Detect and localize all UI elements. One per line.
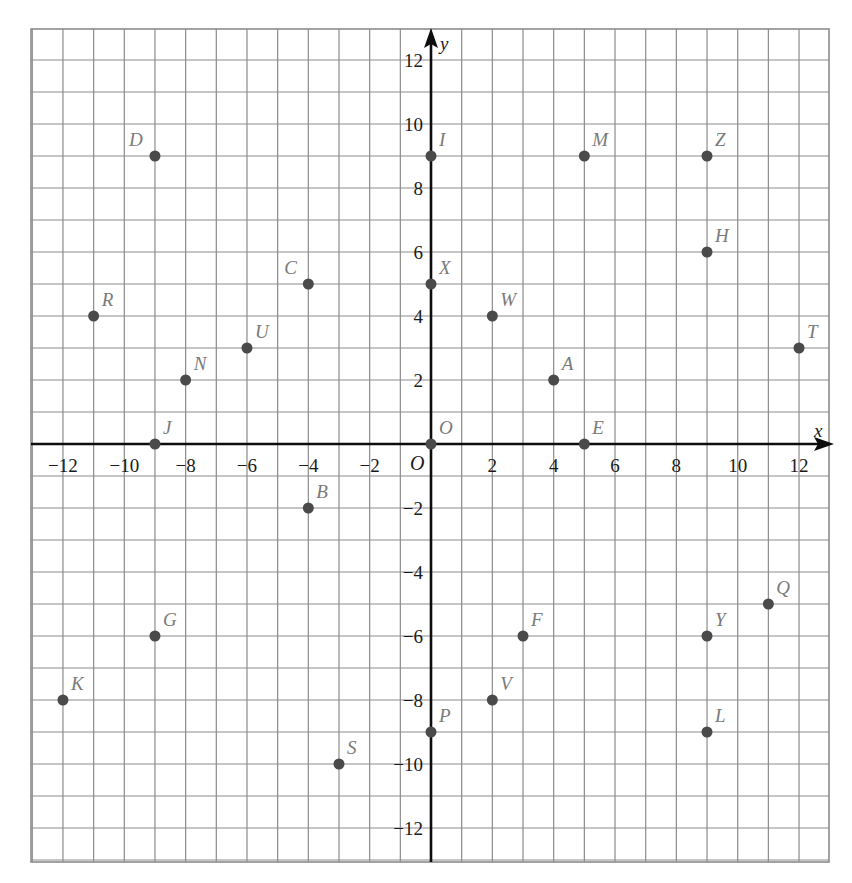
- point-u: [241, 343, 252, 354]
- point-f: [518, 631, 529, 642]
- point-label-a: A: [560, 353, 574, 374]
- y-tick-label: −12: [393, 818, 423, 839]
- point-k: [57, 695, 68, 706]
- x-axis-label: x: [813, 420, 823, 441]
- point-label-j: J: [163, 417, 173, 438]
- point-label-o: O: [439, 417, 453, 438]
- point-label-v: V: [500, 673, 514, 694]
- coordinate-plane: x y O −12−10−8−6−4−22468101212108642−2−4…: [0, 0, 852, 883]
- point-w: [487, 311, 498, 322]
- point-x: [426, 279, 437, 290]
- point-label-g: G: [163, 609, 177, 630]
- point-c: [303, 279, 314, 290]
- point-label-p: P: [438, 705, 451, 726]
- y-tick-label: 8: [414, 178, 424, 199]
- point-e: [579, 439, 590, 450]
- y-tick-label: −8: [403, 690, 423, 711]
- point-label-k: K: [70, 673, 85, 694]
- point-i: [426, 151, 437, 162]
- point-d: [149, 151, 160, 162]
- point-label-x: X: [438, 257, 452, 278]
- y-tick-label: −10: [393, 754, 423, 775]
- x-tick-label: 10: [728, 455, 747, 476]
- point-label-e: E: [591, 417, 604, 438]
- x-tick-label: −4: [298, 455, 319, 476]
- data-points: ABCDEFGHIJKLMNOPQRSTUVWXYZ: [57, 129, 819, 770]
- point-label-u: U: [255, 321, 270, 342]
- point-h: [702, 247, 713, 258]
- x-tick-label: 6: [610, 455, 620, 476]
- y-tick-label: 4: [414, 306, 424, 327]
- point-label-n: N: [193, 353, 208, 374]
- y-axis-label: y: [438, 33, 449, 54]
- point-v: [487, 695, 498, 706]
- x-tick-label: −2: [360, 455, 380, 476]
- point-b: [303, 503, 314, 514]
- point-o: [426, 439, 437, 450]
- point-label-l: L: [714, 705, 726, 726]
- point-l: [702, 727, 713, 738]
- x-tick-label: −8: [176, 455, 196, 476]
- x-tick-label: 12: [790, 455, 809, 476]
- point-n: [180, 375, 191, 386]
- point-label-f: F: [530, 609, 543, 630]
- point-z: [702, 151, 713, 162]
- point-s: [333, 759, 344, 770]
- y-tick-label: 2: [414, 370, 424, 391]
- point-j: [149, 439, 160, 450]
- x-tick-label: 8: [672, 455, 682, 476]
- y-tick-label: 6: [414, 242, 424, 263]
- x-tick-label: −10: [109, 455, 139, 476]
- y-tick-label: −4: [403, 562, 424, 583]
- point-label-q: Q: [776, 577, 790, 598]
- point-label-w: W: [500, 289, 518, 310]
- point-label-s: S: [347, 737, 357, 758]
- point-label-d: D: [128, 129, 143, 150]
- point-q: [763, 599, 774, 610]
- x-tick-label: −12: [48, 455, 78, 476]
- point-r: [88, 311, 99, 322]
- y-tick-label: 10: [404, 114, 423, 135]
- x-tick-label: 4: [549, 455, 559, 476]
- point-label-z: Z: [715, 129, 726, 150]
- point-label-i: I: [438, 129, 447, 150]
- point-g: [149, 631, 160, 642]
- origin-label: O: [410, 452, 424, 474]
- point-a: [548, 375, 559, 386]
- point-p: [426, 727, 437, 738]
- point-t: [794, 343, 805, 354]
- point-label-b: B: [316, 481, 328, 502]
- point-y: [702, 631, 713, 642]
- point-m: [579, 151, 590, 162]
- point-label-y: Y: [715, 609, 728, 630]
- point-label-t: T: [807, 321, 819, 342]
- y-tick-label: 12: [404, 50, 423, 71]
- point-label-m: M: [591, 129, 609, 150]
- x-tick-label: 2: [488, 455, 498, 476]
- x-tick-label: −6: [237, 455, 257, 476]
- point-label-c: C: [284, 257, 297, 278]
- y-tick-label: −2: [403, 498, 423, 519]
- point-label-h: H: [714, 225, 730, 246]
- point-label-r: R: [101, 289, 114, 310]
- y-tick-label: −6: [403, 626, 423, 647]
